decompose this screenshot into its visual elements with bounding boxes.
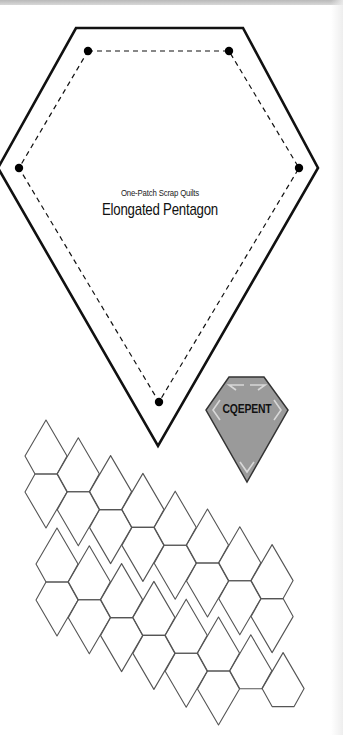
pattern-cut-line: [0, 28, 318, 446]
pentagon-tile-down: [154, 545, 196, 599]
pentagon-tile-up: [251, 545, 293, 599]
template-code-label: CQEPENT: [214, 401, 280, 416]
pentagon-tile-down: [36, 582, 78, 636]
pattern-title: Elongated Pentagon: [35, 200, 285, 220]
pentagon-tile-up: [90, 456, 132, 510]
pentagon-tile-up: [219, 527, 261, 581]
diagram-canvas: [0, 0, 343, 735]
pentagon-tile-down: [198, 671, 240, 725]
pentagon-tile-down: [165, 653, 207, 707]
pentagon-tile-up: [262, 653, 304, 707]
pattern-sewing-line: [19, 51, 299, 402]
scan-right-edge: [331, 0, 343, 735]
tessellation-layout: [25, 420, 304, 725]
book-subtitle: One-Patch Scrap Quilts: [29, 187, 291, 198]
template-outline: [206, 377, 288, 482]
corner-dot: [295, 164, 303, 172]
pentagon-tile-up: [165, 599, 207, 653]
pentagon-tile-down: [251, 599, 293, 653]
pentagon-tile-down: [133, 635, 175, 689]
pentagon-tile-up: [198, 617, 240, 671]
pentagon-tile-up: [133, 581, 175, 635]
pentagon-tile-down: [101, 618, 143, 672]
corner-dot: [225, 47, 233, 55]
pentagon-tile-down: [187, 563, 229, 617]
pentagon-tile-down: [90, 510, 132, 564]
pentagon-tile-down: [57, 492, 99, 546]
pentagon-tile-up: [36, 528, 78, 582]
pentagon-tile-up: [154, 491, 196, 545]
pentagon-tile-up: [68, 546, 110, 600]
corner-dot: [84, 47, 92, 55]
pentagon-tile-up: [57, 438, 99, 492]
template-piece: [206, 377, 288, 482]
pentagon-tile-down: [219, 581, 261, 635]
corner-dot: [15, 164, 23, 172]
corner-dot: [155, 398, 163, 406]
pentagon-tile-up: [230, 635, 272, 689]
pentagon-tile-down: [68, 600, 110, 654]
pentagon-tile-down: [25, 474, 67, 528]
pentagon-tile-up: [25, 420, 67, 474]
pentagon-tile-up: [122, 473, 164, 527]
pentagon-tile-down: [122, 527, 164, 581]
pentagon-tile-up: [187, 509, 229, 563]
pentagon-tile-up: [101, 564, 143, 618]
